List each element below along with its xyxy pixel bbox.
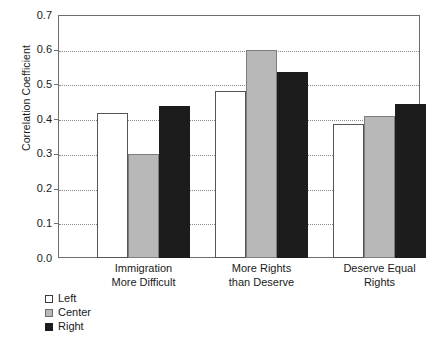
y-tick-label: 0.2 [18,183,52,194]
legend-swatch-icon [45,323,53,331]
y-tick-label: 0.0 [18,253,52,264]
x-axis-label-line: Rights [305,276,441,290]
y-tick-label: 0.5 [18,79,52,90]
legend-label: Right [58,321,84,332]
y-tick-label: 0.3 [18,148,52,159]
legend-item-left[interactable]: Left [45,292,91,305]
bar-center-group3 [364,116,395,258]
legend-swatch-icon [45,295,53,303]
legend-swatch-icon [45,309,53,317]
bar-chart-figure: Correlation Coefficient 0.00.10.20.30.40… [0,0,441,343]
x-axis-group-label: Deserve EqualRights [305,262,441,289]
x-axis-label-line: Deserve Equal [305,262,441,276]
bar-left-group3 [333,124,364,258]
y-tick-label: 0.4 [18,114,52,125]
legend-item-right[interactable]: Right [45,320,91,333]
legend-label: Center [58,307,91,318]
legend-label: Left [58,293,76,304]
bar-center-group2 [246,50,277,258]
bar-right-group1 [159,106,190,258]
bar-right-group2 [277,72,308,258]
bar-center-group1 [128,154,159,258]
legend: LeftCenterRight [45,292,91,334]
bar-right-group3 [395,104,426,258]
y-tick-label: 0.1 [18,218,52,229]
legend-item-center[interactable]: Center [45,306,91,319]
y-tick-label: 0.7 [18,10,52,21]
bar-left-group2 [215,91,246,258]
y-tick-label: 0.6 [18,44,52,55]
bars-layer [58,15,420,258]
bar-left-group1 [97,113,128,258]
